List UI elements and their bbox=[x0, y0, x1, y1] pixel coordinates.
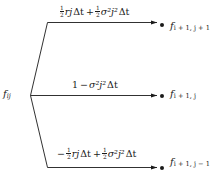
branch-label-mid: 1−σ²j²Δt bbox=[71, 80, 119, 90]
branch-label-down: − 1 2 rjΔt+ 1 2 σ²j²Δt bbox=[56, 147, 137, 160]
target-node-label-down: fi + 1, j − 1 bbox=[170, 157, 210, 168]
target-node-label-up: fi + 1, j + 1 bbox=[170, 21, 210, 32]
term-sigma2j2-down: σ²j² bbox=[108, 148, 125, 159]
term-one-mid: 1 bbox=[71, 79, 79, 90]
terminal-dot-up bbox=[160, 23, 164, 27]
terminal-dot-mid bbox=[160, 94, 164, 98]
target-subscript-down: i + 1, j − 1 bbox=[174, 160, 210, 168]
delta-t-up-2: Δt bbox=[118, 6, 131, 17]
minus-sign-down: − bbox=[56, 148, 66, 159]
branch-line-up-diagonal bbox=[31, 23, 48, 96]
target-subscript-up: i + 1, j + 1 bbox=[174, 24, 210, 32]
trinomial-tree-diagram: fij 1 2 rjΔt+ 1 2 σ²j²Δt 1−σ²j²Δt − 1 2 … bbox=[0, 0, 212, 186]
fraction-half-down-2: 1 2 bbox=[102, 147, 107, 160]
branch-label-up: 1 2 rjΔt+ 1 2 σ²j²Δt bbox=[59, 5, 130, 18]
plus-sign-up: + bbox=[85, 6, 95, 17]
plus-sign-down: + bbox=[92, 148, 102, 159]
delta-t-down-2: Δt bbox=[125, 148, 138, 159]
term-sigma2j2-mid: σ²j² bbox=[89, 79, 106, 90]
branch-line-down-diagonal bbox=[31, 96, 48, 168]
delta-t-up-1: Δt bbox=[72, 6, 85, 17]
minus-sign-mid: − bbox=[79, 79, 89, 90]
target-subscript-mid: i + 1, j bbox=[174, 92, 196, 100]
fraction-half-up-1: 1 2 bbox=[60, 5, 65, 18]
term-sigma2j2-up: σ²j² bbox=[101, 6, 118, 17]
fraction-half-up-2: 1 2 bbox=[95, 5, 100, 18]
source-node-label: fij bbox=[3, 89, 11, 100]
target-node-label-mid: fi + 1, j bbox=[170, 89, 196, 100]
fraction-half-down-1: 1 2 bbox=[66, 147, 71, 160]
source-node-subscript: ij bbox=[7, 92, 11, 100]
delta-t-down-1: Δt bbox=[79, 148, 92, 159]
delta-t-mid: Δt bbox=[106, 79, 119, 90]
terminal-dot-down bbox=[160, 166, 164, 170]
